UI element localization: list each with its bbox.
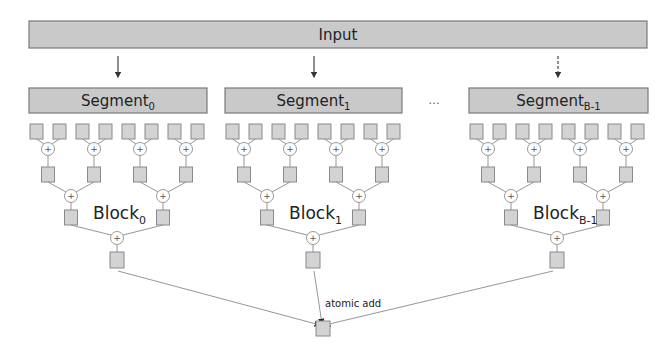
leaf-cell: [470, 124, 483, 139]
partial-cell: [574, 167, 587, 182]
svg-text:+: +: [263, 191, 271, 201]
block-tree-0: +++++++Block0: [30, 124, 204, 268]
leaf-cell: [295, 124, 308, 139]
block-label: Block0: [93, 203, 146, 227]
partial-cell: [353, 210, 366, 225]
leaf-cell: [168, 124, 181, 139]
block-result-cell: [306, 252, 320, 268]
leaf-cell: [631, 124, 644, 139]
svg-text:+: +: [159, 191, 167, 201]
svg-text:+: +: [67, 191, 75, 201]
segment-2: SegmentB-1: [469, 56, 648, 113]
partial-cell: [238, 167, 251, 182]
leaf-cell: [387, 124, 400, 139]
partial-cell: [65, 210, 78, 225]
block-label: Block1: [289, 203, 342, 227]
partial-cell: [261, 210, 274, 225]
leaf-cell: [226, 124, 239, 139]
global-result-cell: [316, 321, 330, 336]
svg-text:+: +: [553, 233, 561, 243]
leaf-cell: [539, 124, 552, 139]
svg-text:+: +: [622, 144, 630, 154]
leaf-cell: [493, 124, 506, 139]
block-result-cell: [110, 252, 124, 268]
svg-text:+: +: [599, 191, 607, 201]
segment-label: Segment1: [277, 92, 351, 112]
leaf-cell: [99, 124, 112, 139]
segment-label: Segment0: [81, 92, 155, 112]
block-tree-2: +++++++BlockB-1: [470, 124, 644, 268]
leaf-cell: [516, 124, 529, 139]
svg-text:+: +: [484, 144, 492, 154]
parallel-reduction-diagram: Input Segment0+++++++Block0Segment1+++++…: [0, 0, 672, 358]
input-bar: Input: [29, 21, 647, 48]
leaf-cell: [608, 124, 621, 139]
svg-text:+: +: [576, 144, 584, 154]
leaf-cell: [585, 124, 598, 139]
partial-cell: [620, 167, 633, 182]
leaf-cell: [364, 124, 377, 139]
partial-cell: [42, 167, 55, 182]
block-tree-1: +++++++Block1: [226, 124, 400, 268]
input-label: Input: [319, 26, 358, 44]
svg-text:+: +: [182, 144, 190, 154]
leaf-cell: [318, 124, 331, 139]
segment-1: Segment1: [225, 56, 402, 113]
partial-cell: [330, 167, 343, 182]
svg-text:+: +: [332, 144, 340, 154]
svg-text:+: +: [90, 144, 98, 154]
atomic-add-label: atomic add: [325, 298, 381, 309]
svg-text:+: +: [507, 191, 515, 201]
atomic-add-target: atomic add: [118, 271, 553, 336]
svg-text:+: +: [355, 191, 363, 201]
leaf-cell: [272, 124, 285, 139]
svg-text:+: +: [44, 144, 52, 154]
leaf-cell: [249, 124, 262, 139]
block-label: BlockB-1: [533, 203, 598, 227]
svg-text:+: +: [113, 233, 121, 243]
leaf-cell: [145, 124, 158, 139]
leaf-cell: [191, 124, 204, 139]
svg-text:+: +: [530, 144, 538, 154]
partial-cell: [180, 167, 193, 182]
leaf-cell: [562, 124, 575, 139]
svg-text:+: +: [378, 144, 386, 154]
leaf-cell: [122, 124, 135, 139]
partial-cell: [528, 167, 541, 182]
svg-text:+: +: [240, 144, 248, 154]
partial-cell: [376, 167, 389, 182]
leaf-cell: [76, 124, 89, 139]
leaf-cell: [30, 124, 43, 139]
leaf-cell: [53, 124, 66, 139]
ellipsis: …: [428, 93, 440, 107]
partial-cell: [88, 167, 101, 182]
partial-cell: [157, 210, 170, 225]
svg-text:+: +: [136, 144, 144, 154]
partial-cell: [284, 167, 297, 182]
block-result-cell: [550, 252, 564, 268]
partial-cell: [482, 167, 495, 182]
svg-text:+: +: [309, 233, 317, 243]
partial-cell: [505, 210, 518, 225]
partial-cell: [597, 210, 610, 225]
partial-cell: [134, 167, 147, 182]
svg-text:+: +: [286, 144, 294, 154]
leaf-cell: [341, 124, 354, 139]
segment-0: Segment0: [29, 56, 207, 113]
